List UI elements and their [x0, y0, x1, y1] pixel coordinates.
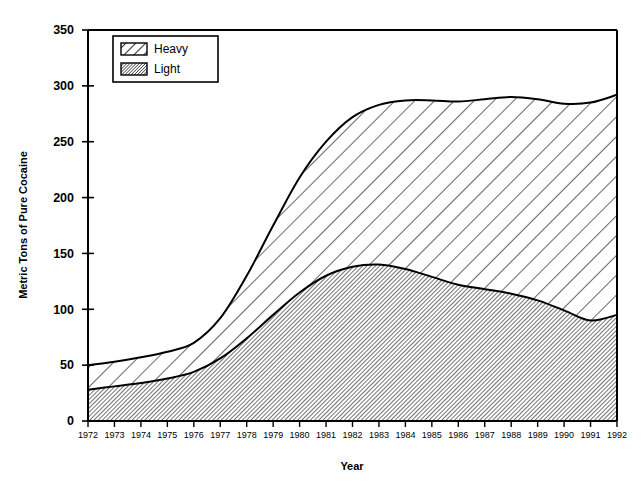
y-axis-title: Metric Tons of Pure Cocaine [17, 151, 29, 299]
x-tick-label: 1979 [263, 430, 283, 440]
x-tick-label: 1973 [104, 430, 124, 440]
x-tick-label: 1985 [422, 430, 442, 440]
y-tick-label: 350 [53, 23, 74, 37]
stacked-area-chart: 050100150200250300350 197219731974197519… [0, 0, 642, 493]
x-tick-label: 1982 [342, 430, 362, 440]
y-tick-label: 150 [53, 247, 74, 261]
x-tick-label: 1983 [369, 430, 389, 440]
legend: Heavy Light [113, 36, 218, 82]
x-tick-label: 1984 [395, 430, 415, 440]
x-axis-ticks: 1972197319741975197619771978197919801981… [78, 421, 627, 440]
x-axis-title: Year [340, 460, 364, 472]
y-tick-label: 250 [53, 135, 74, 149]
y-tick-label: 300 [53, 79, 74, 93]
x-tick-label: 1978 [237, 430, 257, 440]
legend-swatch-heavy [121, 43, 147, 55]
x-tick-label: 1975 [157, 430, 177, 440]
x-tick-label: 1991 [581, 430, 601, 440]
y-tick-label: 50 [60, 358, 74, 372]
x-tick-label: 1989 [528, 430, 548, 440]
x-tick-label: 1988 [501, 430, 521, 440]
plot-area [88, 30, 617, 421]
x-tick-label: 1990 [554, 430, 574, 440]
x-tick-label: 1976 [184, 430, 204, 440]
x-tick-label: 1986 [448, 430, 468, 440]
legend-label-light: Light [154, 62, 181, 76]
x-tick-label: 1987 [475, 430, 495, 440]
y-tick-label: 200 [53, 191, 74, 205]
legend-swatch-light [121, 63, 147, 75]
legend-label-heavy: Heavy [154, 42, 188, 56]
y-tick-label: 0 [67, 414, 74, 428]
x-tick-label: 1974 [131, 430, 151, 440]
x-tick-label: 1977 [210, 430, 230, 440]
x-tick-label: 1981 [316, 430, 336, 440]
y-tick-label: 100 [53, 303, 74, 317]
x-tick-label: 1980 [290, 430, 310, 440]
x-tick-label: 1972 [78, 430, 98, 440]
chart-container: 050100150200250300350 197219731974197519… [0, 0, 642, 493]
x-tick-label: 1992 [607, 430, 627, 440]
